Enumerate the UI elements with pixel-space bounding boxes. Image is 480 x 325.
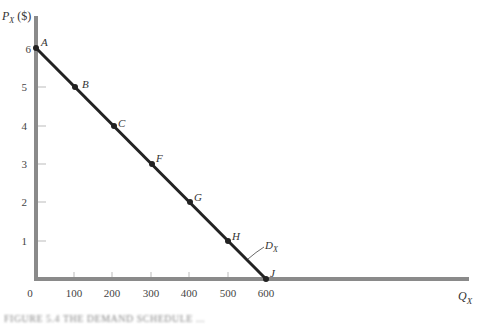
label-f: F (155, 152, 163, 164)
y-ticks (38, 87, 46, 241)
label-c: C (118, 117, 126, 129)
x-axis-title: QX (458, 289, 473, 306)
y-tick-1: 1 (22, 235, 28, 247)
figure-caption: FIGURE 5.4 THE DEMAND SCHEDULE ... (4, 313, 205, 324)
x-tick-100: 100 (66, 287, 83, 299)
y-axis-title: PX ($) (1, 9, 31, 25)
y-tick-5: 5 (22, 81, 28, 93)
x-tick-300: 300 (143, 287, 160, 299)
label-h: H (231, 230, 241, 242)
demand-chart: 1 2 3 4 5 6 0 100 200 300 400 500 600 PX… (0, 0, 480, 325)
x-ticks (74, 272, 228, 277)
point-h (225, 238, 231, 244)
x-tick-600: 600 (258, 287, 275, 299)
point-g (187, 199, 193, 205)
origin-label: 0 (27, 287, 33, 299)
label-g: G (194, 191, 202, 203)
point-f (149, 161, 155, 167)
point-a (33, 45, 39, 51)
y-tick-4: 4 (22, 120, 28, 132)
curve-label-leader (248, 247, 264, 259)
label-b: B (82, 78, 89, 90)
point-c (111, 123, 117, 129)
y-tick-2: 2 (22, 196, 28, 208)
label-a: A (40, 36, 48, 48)
x-tick-400: 400 (181, 287, 198, 299)
x-tick-200: 200 (104, 287, 121, 299)
y-tick-3: 3 (22, 158, 28, 170)
point-j (263, 276, 269, 282)
curve-label: DX (264, 239, 279, 254)
y-tick-6: 6 (26, 43, 32, 55)
x-tick-500: 500 (220, 287, 237, 299)
point-b (72, 84, 78, 90)
